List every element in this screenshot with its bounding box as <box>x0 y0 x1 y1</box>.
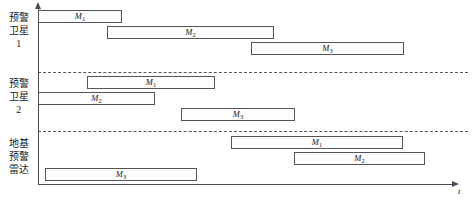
group-label-line: 预警 <box>2 150 36 163</box>
bar-label-subscript: 3 <box>123 173 126 180</box>
bar-label-subscript: 1 <box>319 141 322 148</box>
group-label-line: 地基 <box>2 137 36 150</box>
bar-sensor-2-m3: M3 <box>181 108 295 121</box>
bar-label-subscript: 1 <box>82 15 85 22</box>
bar-sensor-3-m3: M3 <box>45 168 197 181</box>
bar-sensor-3-m1: M1 <box>231 136 403 149</box>
bar-sensor-1-m2: M2 <box>107 26 274 39</box>
bar-label: M1 <box>146 76 156 88</box>
group-label-line: 雷达 <box>2 163 36 176</box>
group-label-sensor-3: 地基预警雷达 <box>2 137 36 176</box>
bar-sensor-1-m3: M3 <box>251 42 404 55</box>
group-label-line: 1 <box>2 37 36 50</box>
bar-label: M1 <box>75 10 85 22</box>
bar-label-subscript: 3 <box>329 47 332 54</box>
bar-sensor-1-m1: M1 <box>38 10 122 23</box>
group-divider <box>38 72 468 73</box>
bar-label: M3 <box>233 108 243 120</box>
x-axis-label: t <box>458 186 461 196</box>
bar-label: M2 <box>91 92 101 104</box>
bar-label: M2 <box>185 26 195 38</box>
bar-label-subscript: 2 <box>192 31 195 38</box>
y-axis-arrow-icon <box>35 2 41 9</box>
group-label-line: 2 <box>2 103 36 116</box>
bar-label: M3 <box>116 168 126 180</box>
bar-label: M2 <box>354 152 364 164</box>
group-label-sensor-2: 预警卫星2 <box>2 77 36 116</box>
bar-sensor-2-m2: M2 <box>38 92 155 105</box>
group-label-line: 卫星 <box>2 24 36 37</box>
bar-label: M1 <box>312 136 322 148</box>
bar-label-subscript: 2 <box>361 157 364 164</box>
group-label-line: 卫星 <box>2 90 36 103</box>
group-label-line: 预警 <box>2 77 36 90</box>
x-axis-line <box>38 184 455 185</box>
bar-label-subscript: 2 <box>98 97 101 104</box>
bar-sensor-2-m1: M1 <box>87 76 215 89</box>
group-label-sensor-1: 预警卫星1 <box>2 11 36 50</box>
bar-sensor-3-m2: M2 <box>294 152 425 165</box>
bar-label-subscript: 3 <box>240 113 243 120</box>
bar-label: M3 <box>322 42 332 54</box>
group-divider <box>38 131 468 132</box>
bar-label-subscript: 1 <box>153 81 156 88</box>
group-label-line: 预警 <box>2 11 36 24</box>
timeline-gantt-figure: t 预警卫星1M1M2M3预警卫星2M1M2M3地基预警雷达M1M2M3 <box>0 0 474 205</box>
